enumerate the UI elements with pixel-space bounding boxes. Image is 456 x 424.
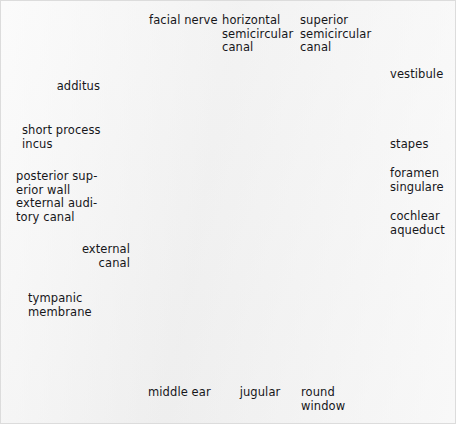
label-middle-ear: middle ear — [148, 386, 206, 400]
label-cochlear-aqueduct: cochlear aqueduct — [390, 210, 454, 237]
label-horizontal-scc: horizontal semicircular canal — [222, 14, 296, 55]
figure-plate: facial nervehorizontal semicircular cana… — [0, 0, 456, 424]
label-posterior-wall-eac: posterior sup- erior wall external audi-… — [16, 170, 112, 224]
label-stapes: stapes — [390, 138, 452, 152]
jugular-fossa — [224, 270, 316, 366]
label-jugular: jugular — [238, 386, 282, 400]
facial-nerve-canal — [217, 162, 239, 182]
label-additus: additus — [44, 80, 100, 94]
label-superior-scc: superior semicircular canal — [300, 14, 374, 55]
cochlear-aqueduct — [251, 217, 285, 247]
label-short-process-incus: short process incus — [22, 124, 102, 151]
label-facial-nerve: facial nerve — [149, 14, 217, 28]
specimen-body — [80, 35, 400, 385]
label-external-canal: external canal — [46, 243, 130, 270]
label-round-window: round window — [301, 386, 351, 413]
label-tympanic-membrane: tympanic membrane — [28, 292, 110, 319]
label-vestibule: vestibule — [390, 68, 452, 82]
label-foramen-singulare: foramen singulare — [390, 167, 454, 194]
